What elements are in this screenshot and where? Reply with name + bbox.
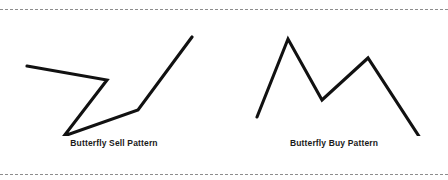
butterfly-sell-polyline: [27, 37, 192, 136]
butterfly-buy-panel: Butterfly Buy Pattern: [228, 18, 440, 166]
top-dashed-divider: [0, 9, 448, 10]
butterfly-buy-polyline: [257, 39, 424, 136]
butterfly-buy-diagram: [228, 18, 440, 136]
butterfly-sell-diagram: [8, 18, 220, 136]
butterfly-sell-panel: Butterfly Sell Pattern: [8, 18, 220, 166]
figure-root: Butterfly Sell Pattern Butterfly Buy Pat…: [0, 0, 448, 180]
bottom-dashed-divider: [0, 174, 448, 175]
butterfly-sell-caption: Butterfly Sell Pattern: [8, 138, 220, 148]
butterfly-buy-caption: Butterfly Buy Pattern: [228, 138, 440, 148]
